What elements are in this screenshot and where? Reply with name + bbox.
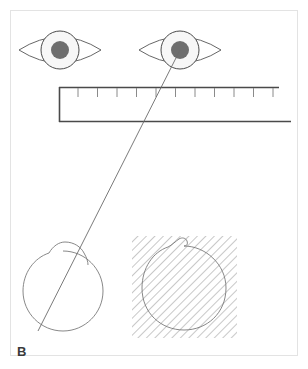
panel-label-b: B bbox=[17, 345, 27, 358]
left-eye-pupil bbox=[51, 41, 69, 59]
figure-canvas bbox=[0, 0, 308, 369]
hatched-square-fill bbox=[132, 236, 237, 338]
hatched-square bbox=[132, 236, 237, 338]
figure-panel: B bbox=[0, 0, 308, 369]
